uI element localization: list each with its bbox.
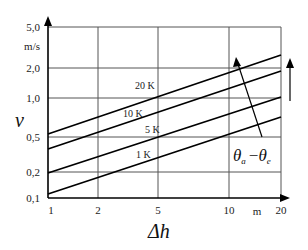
up-arrow-icon (286, 58, 294, 68)
x-tick: 1 (48, 204, 54, 216)
x-unit: m (253, 205, 262, 217)
y-tick: 0,5 (26, 131, 40, 143)
y-unit: m/s (24, 40, 40, 52)
series-labels: 20 K 10 K 5 K 1 K (123, 80, 161, 160)
y-tick-labels: 5,0 m/s 2,0 1,0 0,5 0,2 0,1 (24, 21, 40, 204)
series-lines (48, 55, 281, 194)
y-tick: 0,2 (26, 166, 40, 178)
y-tick: 1,0 (26, 92, 40, 104)
x-tick: 20 (276, 204, 288, 216)
grid (48, 27, 281, 198)
x-tick: 10 (224, 204, 236, 216)
theta-annotation: θa−θe (233, 146, 271, 166)
series-label: 10 K (123, 108, 144, 119)
y-tick: 5,0 (26, 21, 40, 33)
chart: 5,0 m/s 2,0 1,0 0,5 0,2 0,1 1 2 5 10 m 2… (0, 0, 308, 250)
x-axis-arrow-icon (280, 194, 290, 202)
y-tick: 0,1 (26, 192, 40, 204)
x-tick: 5 (155, 204, 161, 216)
series-label: 20 K (135, 80, 156, 91)
x-tick: 2 (95, 204, 101, 216)
x-axis-title: Δh (147, 220, 170, 242)
series-1k-line (48, 117, 281, 194)
y-axis-title: v (15, 109, 24, 131)
x-tick-labels: 1 2 5 10 m 20 (48, 204, 287, 217)
arrow-head-icon (233, 57, 241, 67)
y-tick: 2,0 (26, 62, 40, 74)
series-label: 5 K (145, 124, 161, 135)
series-5k-line (48, 97, 281, 173)
increase-arrow (286, 58, 294, 101)
y-axis-arrow-icon (44, 16, 52, 26)
series-label: 1 K (136, 149, 152, 160)
series-20k-line (48, 55, 281, 134)
